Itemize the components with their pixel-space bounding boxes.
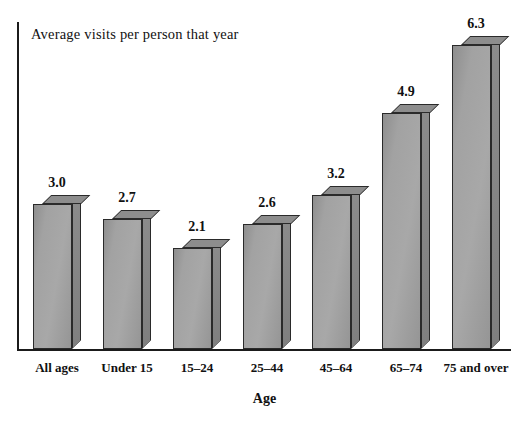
bar-front-face (382, 113, 421, 349)
bar-front-face (312, 195, 351, 349)
chart-title: Average visits per person that year (31, 26, 239, 43)
bar-1 (33, 195, 81, 349)
bar-side-face (282, 215, 291, 349)
bar-front-face (33, 204, 72, 349)
bar-side-face (421, 104, 430, 349)
bar-value-label: 2.1 (167, 219, 227, 235)
bar-front-face (243, 224, 282, 349)
bar-value-label: 4.9 (376, 84, 436, 100)
bar-top-face (252, 215, 300, 224)
bar-value-label: 2.6 (237, 195, 297, 211)
bar-2 (103, 210, 151, 349)
bar-side-face (351, 186, 360, 349)
bar-top-face (391, 104, 439, 113)
bar-side-face (212, 239, 221, 349)
x-axis-line (17, 349, 511, 351)
bar-value-label: 2.7 (97, 190, 157, 206)
bar-3 (173, 239, 221, 349)
bar-top-face (182, 239, 230, 248)
bar-side-face (142, 210, 151, 349)
bar-front-face (452, 45, 491, 349)
bar-chart: Average visits per person that year All … (0, 0, 529, 422)
category-label: 75 and over (426, 360, 526, 376)
bar-top-face (112, 210, 160, 219)
bar-top-face (321, 186, 369, 195)
y-axis-line (17, 22, 19, 351)
bar-value-label: 6.3 (446, 16, 506, 32)
bar-front-face (173, 248, 212, 349)
bar-top-face (461, 36, 509, 45)
bar-7 (452, 36, 500, 349)
bar-value-label: 3.2 (306, 166, 366, 182)
bar-front-face (103, 219, 142, 349)
bar-side-face (491, 37, 500, 349)
bar-5 (312, 186, 360, 349)
x-axis-title: Age (0, 391, 529, 407)
bar-6 (382, 104, 430, 349)
bar-value-label: 3.0 (27, 175, 87, 191)
bar-side-face (72, 196, 81, 349)
bar-top-face (42, 195, 90, 204)
bar-4 (243, 215, 291, 349)
